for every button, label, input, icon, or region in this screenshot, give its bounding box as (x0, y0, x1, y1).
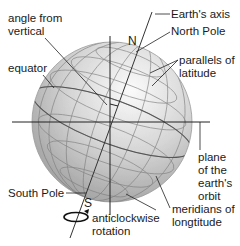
label-n: N (128, 34, 137, 48)
label-angle-from-vertical: angle from vertical (8, 12, 62, 38)
earth-diagram: angle from vertical equator Earth's axis… (0, 0, 240, 246)
label-anticlockwise-rotation: anticlockwise rotation (92, 212, 160, 238)
label-earths-axis: Earth's axis (171, 8, 230, 21)
label-meridians-of-longitude: meridians of longtitude (172, 203, 235, 229)
label-equator: equator (8, 62, 47, 75)
label-south-pole: South Pole (8, 187, 64, 200)
label-s: S (84, 196, 92, 210)
label-plane-of-orbit: plane of the earth's orbit (198, 151, 232, 203)
label-parallels-of-latitude: parallels of latitude (179, 54, 235, 80)
label-north-pole: North Pole (171, 25, 225, 38)
